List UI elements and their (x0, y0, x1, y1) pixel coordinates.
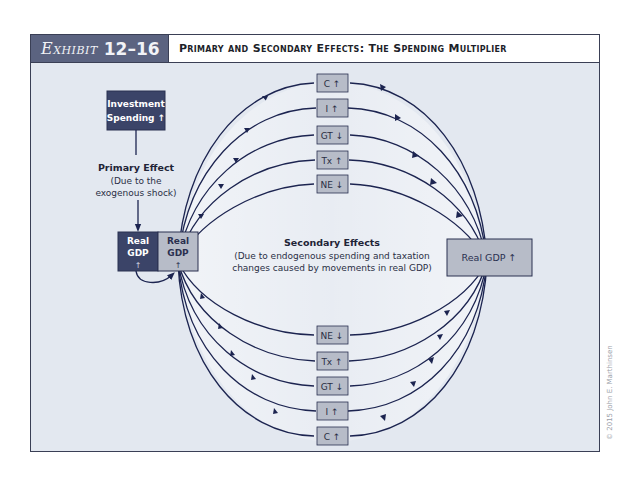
real-gdp-right-label: Real GDP ↑ (462, 252, 517, 263)
bottom-box-c: C ↑ (317, 427, 348, 445)
real-gdp-light-line2: GDP (167, 248, 189, 258)
primary-effect-line1: (Due to the (110, 176, 162, 186)
real-gdp-dark-line2: GDP (127, 248, 149, 258)
multiplier-diagram: Investment Spending ↑ Primary Effect (Du… (0, 0, 627, 480)
svg-text:Tx ↑: Tx ↑ (320, 156, 342, 166)
svg-text:I ↑: I ↑ (325, 104, 338, 114)
top-box-ne: NE ↓ (317, 175, 348, 193)
real-gdp-dark-arrow: ↑ (135, 261, 142, 270)
primary-effect-title: Primary Effect (98, 162, 175, 173)
svg-text:C ↑: C ↑ (324, 79, 341, 89)
primary-effect-line2: exogenous shock) (95, 188, 176, 198)
svg-text:I ↑: I ↑ (325, 407, 338, 417)
secondary-effects-title: Secondary Effects (284, 237, 380, 248)
top-box-gt: GT ↓ (317, 126, 348, 144)
svg-text:NE ↓: NE ↓ (321, 331, 344, 341)
top-box-i: I ↑ (317, 99, 348, 117)
bottom-box-tx: Tx ↑ (317, 352, 348, 370)
svg-text:NE ↓: NE ↓ (321, 180, 344, 190)
investment-spending-box: Investment Spending ↑ (107, 91, 166, 130)
real-gdp-light-line1: Real (167, 236, 189, 246)
bottom-box-i: I ↑ (317, 402, 348, 420)
investment-line1: Investment (107, 99, 165, 109)
real-gdp-left-light-box: Real GDP ↑ (158, 232, 198, 271)
top-box-tx: Tx ↑ (317, 151, 348, 169)
svg-text:Tx ↑: Tx ↑ (320, 357, 342, 367)
real-gdp-right-box: Real GDP ↑ (447, 239, 532, 276)
bottom-box-gt: GT ↓ (317, 377, 348, 395)
gdp-loop-arrow (136, 271, 172, 282)
top-box-c: C ↑ (317, 74, 348, 92)
real-gdp-light-arrow: ↑ (175, 261, 182, 270)
primary-effect-label: Primary Effect (Due to the exogenous sho… (95, 162, 176, 198)
secondary-effects-line2: changes caused by movements in real GDP) (232, 263, 432, 273)
copyright-notice: © 2015 John E. Marthinsen (606, 345, 614, 440)
real-gdp-dark-line1: Real (127, 236, 149, 246)
secondary-effects-line1: (Due to endogenous spending and taxation (234, 251, 430, 261)
svg-text:GT ↓: GT ↓ (321, 382, 344, 392)
real-gdp-left-dark-box: Real GDP ↑ (118, 232, 158, 271)
investment-line2: Spending ↑ (107, 113, 166, 123)
top-component-boxes: C ↑ I ↑ GT ↓ Tx ↑ NE ↓ (317, 74, 348, 193)
bottom-box-ne: NE ↓ (317, 326, 348, 344)
svg-text:C ↑: C ↑ (324, 432, 341, 442)
svg-text:GT ↓: GT ↓ (321, 131, 344, 141)
bottom-component-boxes: NE ↓ Tx ↑ GT ↓ I ↑ C ↑ (317, 326, 348, 445)
